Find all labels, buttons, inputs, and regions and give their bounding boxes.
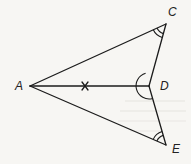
segment-DE <box>149 86 166 145</box>
label-A: A <box>14 79 23 93</box>
label-E: E <box>172 142 181 156</box>
label-D: D <box>160 79 169 93</box>
geometry-diagram: A C D E <box>0 0 191 164</box>
background-noise <box>118 100 186 132</box>
segment-AE <box>30 86 166 145</box>
label-C: C <box>168 5 177 19</box>
segment-AC <box>30 24 166 86</box>
